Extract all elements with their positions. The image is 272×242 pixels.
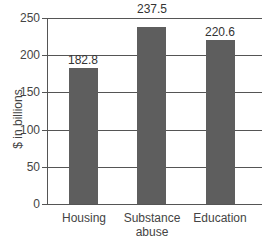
y-tick-mark <box>42 167 47 168</box>
x-label-education: Education <box>180 211 260 225</box>
y-axis-line <box>47 18 48 205</box>
bar-chart: $ in billions 250 200 150 100 50 0 182.8… <box>0 0 272 242</box>
value-label-education: 220.6 <box>190 25 250 39</box>
y-tick-mark <box>42 55 47 56</box>
y-tick-label: 150 <box>10 85 40 99</box>
value-label-substance-abuse: 237.5 <box>122 2 182 16</box>
y-tick-label: 250 <box>10 11 40 25</box>
x-label-substance-abuse-line2: abuse <box>112 225 192 239</box>
bar-education <box>206 40 235 204</box>
y-tick-label: 50 <box>10 160 40 174</box>
y-tick-mark <box>42 18 47 19</box>
x-axis-baseline <box>42 204 262 205</box>
bar-housing <box>69 68 98 204</box>
y-tick-label: 0 <box>10 197 40 211</box>
y-tick-mark <box>42 92 47 93</box>
bar-substance-abuse <box>137 27 166 204</box>
y-tick-label: 200 <box>10 48 40 62</box>
y-tick-label: 100 <box>10 123 40 137</box>
value-label-housing: 182.8 <box>53 53 113 67</box>
y-tick-mark <box>42 130 47 131</box>
gridline-250 <box>47 18 262 19</box>
